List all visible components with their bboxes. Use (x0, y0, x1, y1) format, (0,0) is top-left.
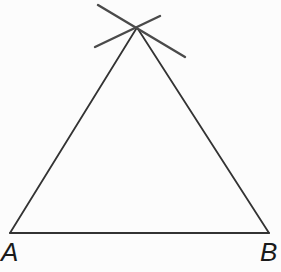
construction-diagram: A B (0, 0, 281, 272)
compass-arc-mark-1 (98, 5, 185, 57)
triangle-side-right (137, 28, 269, 234)
vertex-label-b: B (260, 237, 277, 267)
triangle-construction-svg: A B (0, 0, 281, 272)
triangle-side-left (10, 28, 137, 234)
vertex-label-a: A (0, 237, 18, 267)
